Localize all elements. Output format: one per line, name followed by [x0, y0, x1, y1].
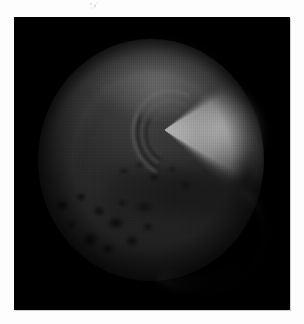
crater-field — [44, 177, 180, 287]
plume-bright-core — [196, 99, 262, 161]
scan-speck-artifact — [88, 1, 100, 11]
image-panel — [14, 17, 290, 310]
figure-root — [0, 0, 304, 324]
planetary-disc-layer — [14, 17, 290, 310]
figure-caption — [14, 312, 290, 322]
